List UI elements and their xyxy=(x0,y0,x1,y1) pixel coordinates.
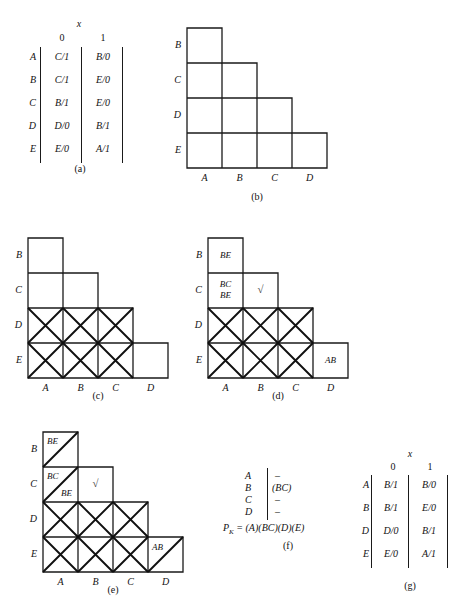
chart-b-col-label-D: D xyxy=(292,172,327,183)
chart-b-row-label-E: E xyxy=(168,144,181,155)
cell-a-3-next0: D/0 xyxy=(43,120,81,131)
chart-d-note-CA-top: BC xyxy=(208,279,243,289)
chart-e-row-label-B: B xyxy=(24,443,37,454)
chart-b-col-label-B: B xyxy=(222,172,257,183)
cell-g-1-next0: B/1 xyxy=(372,502,410,513)
partition-f-value-1: (BC) xyxy=(272,482,291,493)
input-variable-label-g: x xyxy=(391,448,429,459)
chart-d-note-BA: BE xyxy=(208,250,243,260)
implication-chart-e: B C D E A B C D BE BC BE √ AB xyxy=(41,430,186,575)
row-label-a-2: C xyxy=(22,97,36,108)
row-label-g-2: D xyxy=(355,525,369,536)
chart-b-row-label-C: C xyxy=(168,74,181,85)
cell-g-0-next1: B/0 xyxy=(410,479,448,490)
chart-d-col-label-D: D xyxy=(313,382,348,393)
caption-g: (g) xyxy=(390,580,430,591)
column-header-a-1: 1 xyxy=(84,32,122,43)
chart-e-note-BA: BE xyxy=(47,436,58,446)
cell-g-2-next0: D/0 xyxy=(372,525,410,536)
cell-a-0-next0: C/1 xyxy=(43,51,81,62)
chart-c-col-label-D: D xyxy=(133,382,168,393)
partition-f-value-0: – xyxy=(275,470,280,481)
chart-d-row-label-C: C xyxy=(189,284,202,295)
row-label-g-1: B xyxy=(355,502,369,513)
caption-e: (e) xyxy=(93,584,133,595)
chart-b-grid xyxy=(185,26,330,171)
cell-a-3-next1: B/1 xyxy=(84,120,122,131)
chart-d-row-label-E: E xyxy=(189,354,202,365)
chart-b-col-label-C: C xyxy=(257,172,292,183)
cell-g-3-next1: A/1 xyxy=(410,548,448,559)
partition-f-result-value: = (A)(BC)(D)(E) xyxy=(234,522,305,533)
row-label-a-3: D xyxy=(22,120,36,131)
chart-e-row-label-C: C xyxy=(24,478,37,489)
partition-f-result: PK = (A)(BC)(D)(E) xyxy=(223,522,304,536)
table-rule-a-right xyxy=(122,47,123,163)
partition-f-label-0: A xyxy=(245,470,257,481)
row-label-g-0: A xyxy=(355,479,369,490)
caption-d: (d) xyxy=(258,390,298,401)
chart-c-row-label-E: E xyxy=(9,354,22,365)
chart-e-col-label-A: A xyxy=(43,576,78,587)
partition-f-value-3: – xyxy=(275,506,280,517)
chart-c-row-label-C: C xyxy=(9,284,22,295)
chart-b-row-label-D: D xyxy=(168,109,181,120)
cell-a-1-next1: E/0 xyxy=(84,74,122,85)
chart-e-col-label-D: D xyxy=(148,576,183,587)
row-label-a-1: B xyxy=(22,74,36,85)
column-header-a-0: 0 xyxy=(43,32,81,43)
chart-d-col-label-A: A xyxy=(208,382,243,393)
chart-e-note-CA-top: BC xyxy=(47,471,59,481)
chart-b-row-label-B: B xyxy=(168,39,181,50)
cell-a-2-next1: E/0 xyxy=(84,97,122,108)
partition-f-value-2: – xyxy=(275,494,280,505)
caption-f: (f) xyxy=(268,540,308,551)
row-label-a-0: A xyxy=(22,51,36,62)
chart-b-col-label-A: A xyxy=(187,172,222,183)
chart-e-note-CA-bottom: BE xyxy=(61,488,72,498)
chart-c-grid xyxy=(26,236,171,381)
chart-e-row-label-D: D xyxy=(24,513,37,524)
column-header-g-1: 1 xyxy=(411,461,449,472)
partition-f-label-2: C xyxy=(245,494,257,505)
column-header-g-0: 0 xyxy=(374,461,412,472)
cell-a-1-next0: C/1 xyxy=(43,74,81,85)
chart-e-grid xyxy=(41,430,186,575)
implication-chart-d: B C D E A B C D BE BC BE √ AB xyxy=(206,236,351,381)
chart-e-row-label-E: E xyxy=(24,548,37,559)
caption-b: (b) xyxy=(237,191,277,202)
partition-f-label-3: D xyxy=(245,506,257,517)
cell-a-0-next1: B/0 xyxy=(84,51,122,62)
table-rule-a-mid xyxy=(81,47,82,163)
row-label-a-4: E xyxy=(22,143,36,154)
row-label-g-3: E xyxy=(355,548,369,559)
chart-c-col-label-A: A xyxy=(28,382,63,393)
cell-g-2-next1: B/1 xyxy=(410,525,448,536)
chart-c-row-label-D: D xyxy=(9,319,22,330)
chart-d-check-CB: √ xyxy=(243,283,278,295)
caption-a: (a) xyxy=(60,163,100,174)
cell-a-2-next0: B/1 xyxy=(43,97,81,108)
cell-a-4-next1: A/1 xyxy=(84,143,122,154)
cell-g-1-next1: E/0 xyxy=(410,502,448,513)
chart-e-check-CB: √ xyxy=(78,477,113,489)
implication-chart-c: B C D E A B C D xyxy=(26,236,171,381)
chart-d-row-label-D: D xyxy=(189,319,202,330)
partition-f-rule xyxy=(267,468,268,520)
cell-g-0-next0: B/1 xyxy=(372,479,410,490)
chart-c-row-label-B: B xyxy=(9,249,22,260)
partition-f-label-1: B xyxy=(245,482,257,493)
cell-a-4-next0: E/0 xyxy=(43,143,81,154)
chart-d-note-ED: AB xyxy=(313,355,348,365)
chart-d-note-CA-bottom: BE xyxy=(208,290,243,300)
input-variable-label-a: x xyxy=(60,18,98,29)
implication-chart-b: B C D E A B C D xyxy=(185,26,330,171)
cell-g-3-next0: E/0 xyxy=(372,548,410,559)
chart-e-note-ED: AB xyxy=(152,542,163,552)
chart-d-row-label-B: B xyxy=(189,249,202,260)
table-rule-a-left xyxy=(40,47,41,163)
caption-c: (c) xyxy=(78,390,118,401)
